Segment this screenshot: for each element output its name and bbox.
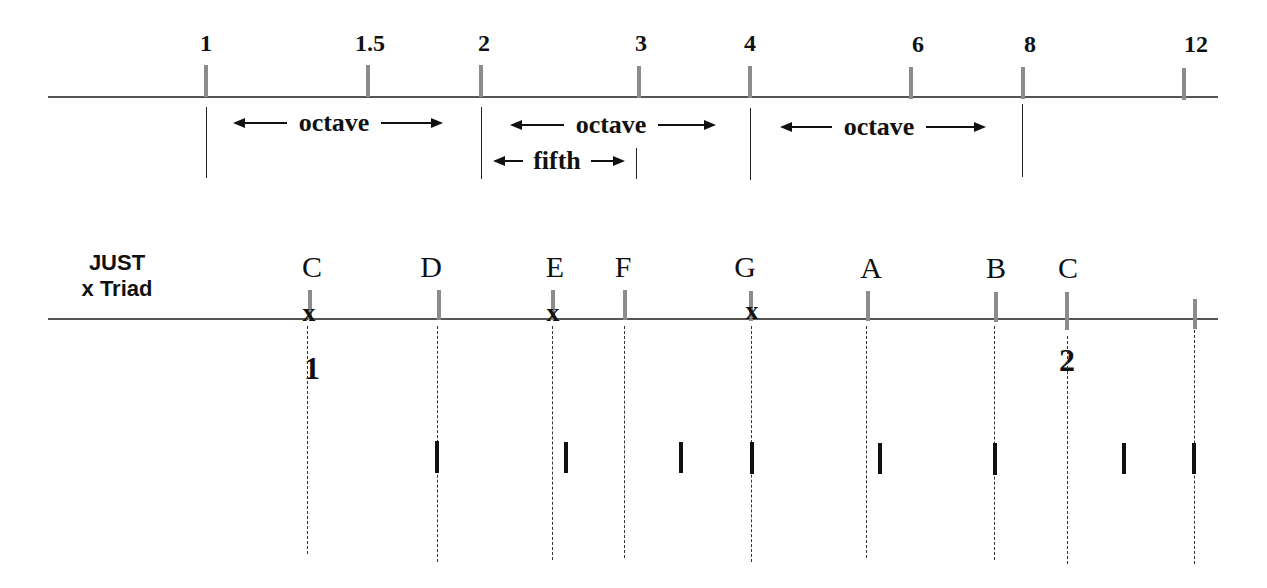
arrow-left-icon bbox=[780, 122, 832, 132]
note-label-e: E bbox=[546, 250, 564, 284]
harmonic-tick-4 bbox=[748, 66, 752, 98]
note-label-c-octave: C bbox=[1058, 251, 1078, 285]
triad-marker-g: x bbox=[746, 298, 759, 324]
dashed-guide-c-octave bbox=[1067, 336, 1068, 564]
comparison-mark-6 bbox=[993, 443, 997, 475]
note-label-g: G bbox=[734, 250, 756, 284]
note-tick-c-octave bbox=[1065, 292, 1069, 330]
dashed-guide-a bbox=[866, 326, 867, 558]
arrow-right-icon bbox=[658, 120, 716, 130]
harmonic-label-6: 6 bbox=[912, 31, 924, 58]
note-label-b: B bbox=[986, 251, 1006, 285]
harmonic-label-2: 2 bbox=[478, 30, 490, 57]
note-label-c: C bbox=[302, 250, 322, 284]
bracket-line-fifth-end bbox=[636, 148, 637, 179]
harmonic-tick-2 bbox=[479, 65, 483, 97]
arrow-left-icon bbox=[510, 120, 564, 130]
harmonic-label-8: 8 bbox=[1024, 31, 1036, 58]
note-tick-a bbox=[866, 291, 870, 321]
harmonic-label-1-5: 1.5 bbox=[355, 30, 385, 57]
comparison-mark-1 bbox=[435, 441, 439, 473]
harmonic-axis-line bbox=[48, 96, 1218, 98]
note-tick-f bbox=[623, 290, 627, 320]
comparison-mark-7 bbox=[1122, 443, 1126, 474]
interval-fifth-2-3: fifth bbox=[482, 146, 636, 176]
arrow-left-icon bbox=[233, 118, 287, 128]
triad-marker-e: x bbox=[547, 300, 560, 326]
harmonic-label-1: 1 bbox=[200, 30, 212, 57]
harmonic-tick-12 bbox=[1182, 68, 1186, 100]
interval-octave-1-2: octave bbox=[208, 108, 468, 138]
harmonic-tick-6 bbox=[909, 67, 913, 99]
just-axis-line bbox=[48, 318, 1218, 320]
note-tick-d bbox=[437, 290, 441, 320]
comparison-mark-4 bbox=[750, 442, 754, 474]
comparison-mark-8 bbox=[1192, 443, 1196, 474]
note-tick-b bbox=[994, 292, 998, 322]
dashed-guide-e bbox=[552, 326, 553, 560]
arrow-right-icon bbox=[591, 156, 625, 166]
triad-marker-c: x bbox=[303, 300, 316, 326]
bracket-line-1 bbox=[206, 107, 207, 178]
harmonic-tick-8 bbox=[1021, 67, 1025, 99]
just-scale-title: JUST x Triad bbox=[62, 250, 172, 302]
comparison-mark-3 bbox=[679, 442, 683, 473]
dashed-guide-f bbox=[624, 326, 625, 558]
arrow-left-icon bbox=[493, 156, 523, 166]
arrow-right-icon bbox=[926, 122, 986, 132]
harmonic-label-12: 12 bbox=[1184, 31, 1208, 58]
note-label-f: F bbox=[615, 250, 632, 284]
arrow-right-icon bbox=[381, 118, 443, 128]
bracket-line-8 bbox=[1022, 104, 1023, 177]
scale-diagram: 1 1.5 2 3 4 6 8 12 octave octave octave … bbox=[0, 0, 1267, 588]
harmonic-tick-1-5 bbox=[366, 65, 370, 97]
comparison-mark-2 bbox=[564, 442, 568, 473]
note-tick-end bbox=[1193, 299, 1197, 329]
interval-octave-4-8: octave bbox=[752, 112, 1014, 142]
harmonic-tick-1 bbox=[204, 65, 208, 97]
note-label-d: D bbox=[420, 250, 442, 284]
dashed-guide-c bbox=[307, 326, 308, 554]
interval-octave-2-4: octave bbox=[484, 110, 742, 140]
bracket-line-4 bbox=[750, 108, 751, 180]
harmonic-tick-3 bbox=[637, 66, 641, 98]
harmonic-label-3: 3 bbox=[635, 30, 647, 57]
note-label-a: A bbox=[860, 251, 882, 285]
harmonic-label-4: 4 bbox=[744, 30, 756, 57]
comparison-mark-5 bbox=[878, 443, 882, 474]
